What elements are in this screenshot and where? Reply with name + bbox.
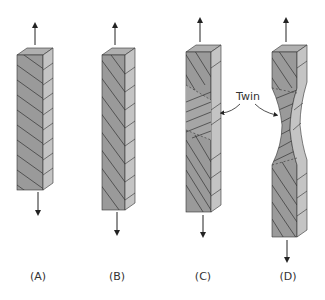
crystal-a	[10, 25, 53, 213]
crystal-d	[268, 20, 307, 260]
twin-arrow-c-icon	[222, 104, 240, 113]
panel-label-c: (C)	[195, 270, 211, 283]
panel-label-b: (B)	[109, 270, 125, 283]
twin-arrow-d-icon	[255, 104, 276, 115]
twin-label: Twin	[236, 90, 260, 103]
crystal-c	[183, 20, 221, 235]
deformation-diagram	[0, 0, 325, 300]
panel-label-d: (D)	[279, 270, 296, 283]
crystal-b	[100, 25, 135, 233]
twin-pointers	[222, 104, 276, 115]
panel-label-a: (A)	[30, 270, 46, 283]
